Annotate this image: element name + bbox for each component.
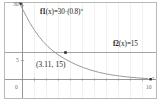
y-tick-label-5: 5	[16, 58, 19, 64]
intersection-point-marker	[64, 51, 67, 54]
f1-function-label: f1(x)=30·(0.8)x	[40, 9, 83, 16]
intersection-coordinate-label: (3.11, 15)	[36, 61, 66, 68]
f2-arg: (x)	[119, 40, 127, 48]
x-tick-label-0: 0	[15, 85, 18, 91]
curve-endpoint-marker	[20, 3, 22, 5]
graph-canvas: f1(x)=30·(0.8)x f2(x)=15 (3.11, 15) 30 5…	[0, 0, 162, 104]
gridlines-vertical	[35, 3, 143, 98]
f2-equation: =15	[127, 40, 138, 48]
x-tick-label-10: 10	[146, 85, 152, 91]
f1-arg: (x)	[46, 8, 54, 16]
x-axis-name-label: x	[152, 76, 155, 81]
y-tick-label-30: 30	[13, 2, 19, 8]
f1-equation: =30·(0.8)	[54, 8, 81, 16]
f1-exponent: x	[80, 7, 82, 12]
f2-function-label: f2(x)=15	[113, 41, 138, 48]
